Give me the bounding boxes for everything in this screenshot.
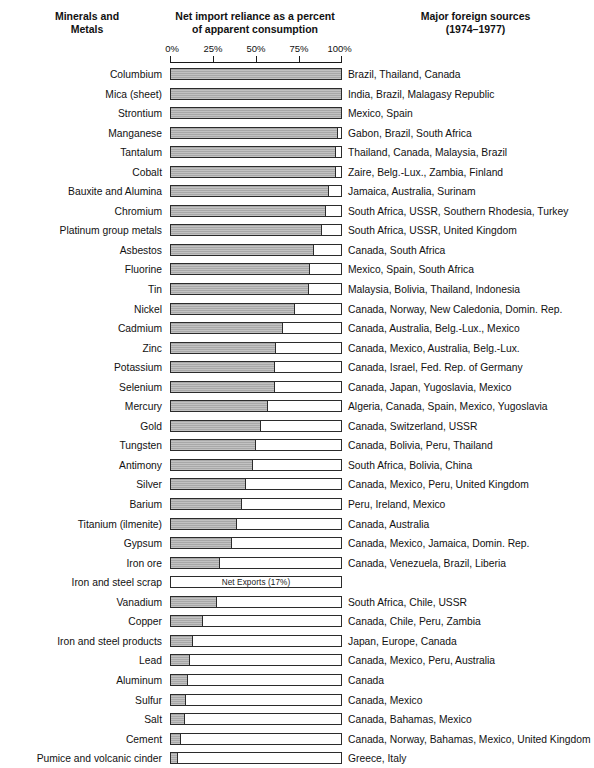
axis-tick-mark xyxy=(299,56,300,63)
row-sources: Canada, Mexico, Peru, Australia xyxy=(348,654,495,667)
row-label: Selenium xyxy=(12,381,162,394)
bar-track xyxy=(170,361,342,373)
bar-fill xyxy=(171,616,203,626)
chart-row: Titanium (ilmenite)Canada, Australia xyxy=(0,516,594,536)
bar-texture xyxy=(171,753,177,763)
bar-fill xyxy=(171,558,220,568)
row-label: Sulfur xyxy=(12,694,162,707)
column-header-import-reliance: Net import reliance as a percentof appar… xyxy=(150,10,360,36)
bar-track xyxy=(170,635,342,647)
row-label: Iron and steel products xyxy=(12,635,162,648)
bar-track xyxy=(170,224,342,236)
x-axis: 0%25%50%75%100% xyxy=(170,43,342,65)
row-sources: India, Brazil, Malagasy Republic xyxy=(348,88,495,101)
bar-texture xyxy=(171,245,313,255)
bar-fill xyxy=(171,714,185,724)
bar-fill xyxy=(171,695,186,705)
bar-track xyxy=(170,498,342,510)
row-label: Silver xyxy=(12,478,162,491)
bar-track: Net Exports (17%) xyxy=(170,576,342,588)
row-label: Tin xyxy=(12,283,162,296)
row-sources: South Africa, USSR, United Kingdom xyxy=(348,224,517,237)
row-label: Asbestos xyxy=(12,244,162,257)
bar-texture xyxy=(171,519,236,529)
bar-fill xyxy=(171,284,309,294)
row-sources: Zaire, Belg.-Lux., Zambia, Finland xyxy=(348,166,503,179)
bar-fill xyxy=(171,128,338,138)
bar-fill xyxy=(171,597,217,607)
bar-fill xyxy=(171,753,178,763)
chart-row: SaltCanada, Bahamas, Mexico xyxy=(0,711,594,731)
row-label: Columbium xyxy=(12,68,162,81)
bar-fill xyxy=(171,147,336,157)
axis-tick-mark xyxy=(213,56,214,63)
bar-fill xyxy=(171,479,246,489)
row-sources: South Africa, Chile, USSR xyxy=(348,596,467,609)
axis-tick-label: 25% xyxy=(203,43,222,54)
bar-fill xyxy=(171,323,283,333)
bar-track xyxy=(170,263,342,275)
page-edge-artifact xyxy=(0,670,594,679)
row-label: Cement xyxy=(12,733,162,746)
chart-row: NickelCanada, Norway, New Caledonia, Dom… xyxy=(0,301,594,321)
bar-fill xyxy=(171,108,341,118)
row-sources: Greece, Italy xyxy=(348,752,406,765)
axis-tick-mark xyxy=(256,56,257,63)
bar-texture xyxy=(171,695,185,705)
chart-row: ManganeseGabon, Brazil, South Africa xyxy=(0,125,594,145)
bar-texture xyxy=(171,382,274,392)
row-label: Titanium (ilmenite) xyxy=(12,518,162,531)
bar-track xyxy=(170,752,342,764)
bar-track xyxy=(170,303,342,315)
bar-fill xyxy=(171,401,268,411)
bar-track xyxy=(170,244,342,256)
bar-fill xyxy=(171,655,190,665)
bar-texture xyxy=(171,147,335,157)
chart-row: VanadiumSouth Africa, Chile, USSR xyxy=(0,594,594,614)
row-sources: Malaysia, Bolivia, Thailand, Indonesia xyxy=(348,283,520,296)
row-label: Gypsum xyxy=(12,537,162,550)
bar-fill xyxy=(171,186,329,196)
bar-texture xyxy=(171,167,335,177)
row-sources: Canada, Norway, Bahamas, Mexico, United … xyxy=(348,733,590,746)
row-label: Manganese xyxy=(12,127,162,140)
bar-track xyxy=(170,342,342,354)
bar-texture xyxy=(171,304,294,314)
bar-track xyxy=(170,88,342,100)
chart-row: Iron and steel productsJapan, Europe, Ca… xyxy=(0,633,594,653)
bar-texture xyxy=(171,89,341,99)
axis-tick-label: 0% xyxy=(165,43,179,54)
bar-fill xyxy=(171,421,261,431)
bar-fill xyxy=(171,499,242,509)
bar-track xyxy=(170,478,342,490)
row-sources: Mexico, Spain, South Africa xyxy=(348,263,474,276)
bar-fill xyxy=(171,734,181,744)
chart-row: SeleniumCanada, Japan, Yugoslavia, Mexic… xyxy=(0,379,594,399)
bar-fill xyxy=(171,245,314,255)
bar-texture xyxy=(171,225,321,235)
bar-fill xyxy=(171,460,253,470)
row-label: Cadmium xyxy=(12,322,162,335)
bar-track xyxy=(170,654,342,666)
bar-texture xyxy=(171,186,328,196)
bar-texture xyxy=(171,636,192,646)
bar-track xyxy=(170,557,342,569)
row-label: Antimony xyxy=(12,459,162,472)
chart-row: SilverCanada, Mexico, Peru, United Kingd… xyxy=(0,476,594,496)
chart-row: AsbestosCanada, South Africa xyxy=(0,242,594,262)
bar-texture xyxy=(171,323,282,333)
bar-fill xyxy=(171,167,336,177)
bar-track xyxy=(170,537,342,549)
chart-row: StrontiumMexico, Spain xyxy=(0,105,594,125)
row-label: Salt xyxy=(12,713,162,726)
row-sources: Canada, Mexico, Jamaica, Domin. Rep. xyxy=(348,537,529,550)
bar-texture xyxy=(171,128,337,138)
bar-texture xyxy=(171,284,308,294)
row-label: Pumice and volcanic cinder xyxy=(12,752,162,765)
chart-row: MercuryAlgeria, Canada, Spain, Mexico, Y… xyxy=(0,398,594,418)
bar-fill xyxy=(171,69,341,79)
row-label: Iron and steel scrap xyxy=(12,576,162,589)
bar-fill xyxy=(171,264,310,274)
row-sources: Canada, Venezuela, Brazil, Liberia xyxy=(348,557,506,570)
